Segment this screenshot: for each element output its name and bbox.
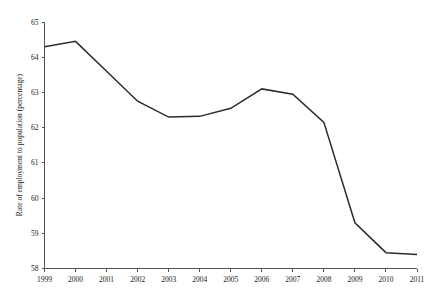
y-axis: 5859606162636465 (31, 18, 45, 274)
x-axis-tick-label: 2005 (223, 275, 238, 284)
x-axis-tick-label: 2002 (130, 275, 145, 284)
y-axis-tick-label: 65 (31, 18, 39, 27)
y-axis-tick-label: 63 (31, 88, 39, 97)
y-axis-tick-label: 58 (31, 264, 39, 273)
x-axis-tick-label: 2000 (68, 275, 83, 284)
x-axis-tick-label: 2006 (254, 275, 269, 284)
y-axis-title: Rate of employment to population (percen… (15, 73, 24, 216)
x-axis-tick-label: 2008 (316, 275, 331, 284)
x-axis-tick-label: 2007 (285, 275, 300, 284)
x-axis: 1999200020012002200320042005200620072008… (37, 269, 425, 284)
x-axis-tick-label: 2011 (410, 275, 425, 284)
y-axis-tick-label: 61 (31, 158, 39, 167)
y-axis-tick-label: 59 (31, 229, 39, 238)
x-axis-tick-label: 2003 (161, 275, 176, 284)
y-axis-tick-label: 64 (31, 53, 39, 62)
x-axis-tick-label: 2001 (99, 275, 114, 284)
x-axis-tick-labels: 1999200020012002200320042005200620072008… (37, 275, 425, 284)
chart-canvas: 5859606162636465 19992000200120022003200… (0, 0, 429, 294)
y-axis-tick-label: 62 (31, 123, 39, 132)
series-line-employment-rate (45, 41, 418, 254)
y-axis-tick-labels: 5859606162636465 (31, 18, 39, 274)
x-axis-tick-label: 2004 (192, 275, 207, 284)
line-chart: 5859606162636465 19992000200120022003200… (0, 0, 429, 294)
y-axis-tick-label: 60 (31, 194, 39, 203)
x-axis-tick-label: 2009 (347, 275, 362, 284)
x-axis-tick-label: 2010 (378, 275, 393, 284)
x-axis-tick-label: 1999 (37, 275, 52, 284)
